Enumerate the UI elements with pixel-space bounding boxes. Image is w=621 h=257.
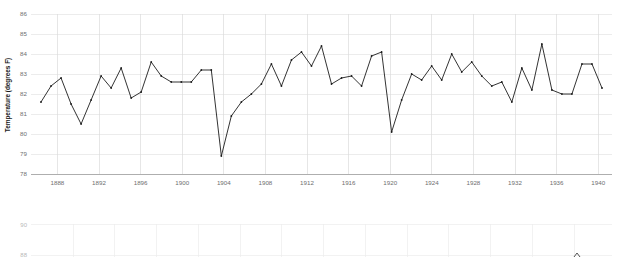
data-point (321, 45, 323, 47)
chart2-y-tick-labels: 90 88 (20, 222, 27, 257)
data-point (40, 101, 42, 103)
data-point (601, 87, 603, 89)
data-point (521, 67, 523, 69)
svg-text:1900: 1900 (175, 179, 189, 186)
data-point (401, 99, 403, 101)
svg-text:83: 83 (20, 70, 27, 77)
data-point (411, 73, 413, 75)
data-point (511, 101, 513, 103)
data-point (591, 63, 593, 65)
svg-text:1904: 1904 (217, 179, 231, 186)
data-point (531, 89, 533, 91)
data-point (451, 53, 453, 55)
chart2-gridlines (31, 224, 612, 257)
data-point (341, 77, 343, 79)
data-point (250, 93, 252, 95)
svg-text:79: 79 (20, 150, 27, 157)
svg-text:80: 80 (20, 130, 27, 137)
data-point (150, 61, 152, 63)
secondary-chart-cropped: 90 88 (0, 214, 621, 257)
data-point (371, 55, 373, 57)
data-point (471, 61, 473, 63)
data-point (210, 69, 212, 71)
data-point (240, 101, 242, 103)
data-point (110, 87, 112, 89)
svg-text:1940: 1940 (591, 179, 605, 186)
svg-text:1916: 1916 (342, 179, 356, 186)
svg-text:1924: 1924 (425, 179, 439, 186)
page-root: Temperature (degrees F) (0, 0, 621, 257)
chart2-svg: 90 88 (0, 214, 621, 257)
svg-text:1928: 1928 (467, 179, 481, 186)
data-point (160, 75, 162, 77)
data-point (261, 83, 263, 85)
svg-text:86: 86 (20, 10, 27, 17)
svg-text:1896: 1896 (134, 179, 148, 186)
svg-text:88: 88 (20, 252, 27, 257)
data-point (361, 85, 363, 87)
svg-text:85: 85 (20, 30, 27, 37)
chart1-svg: Temperature (degrees F) (0, 0, 621, 196)
data-point (100, 75, 102, 77)
data-point (281, 85, 283, 87)
data-point (501, 81, 503, 83)
data-point (271, 63, 273, 65)
data-point (491, 85, 493, 87)
data-point (311, 65, 313, 67)
data-point (331, 83, 333, 85)
svg-text:1920: 1920 (383, 179, 397, 186)
svg-text:1912: 1912 (300, 179, 314, 186)
data-point (190, 81, 192, 83)
data-point (50, 85, 52, 87)
data-point (170, 81, 172, 83)
data-point (551, 89, 553, 91)
data-point (561, 93, 563, 95)
data-point (481, 75, 483, 77)
svg-text:1932: 1932 (508, 179, 522, 186)
x-tick-labels: 1888 1892 1896 1900 1904 1908 1912 1916 … (51, 179, 606, 186)
data-point (351, 75, 353, 77)
y-tick-labels: 86 85 84 83 82 81 80 79 78 (20, 10, 27, 177)
svg-text:78: 78 (20, 170, 27, 177)
data-point (391, 131, 393, 133)
svg-text:1936: 1936 (550, 179, 564, 186)
data-point (461, 71, 463, 73)
data-point (70, 103, 72, 105)
data-point (581, 63, 583, 65)
data-point (381, 51, 383, 53)
data-point (200, 69, 202, 71)
y-gridlines (31, 14, 612, 174)
svg-text:82: 82 (20, 90, 27, 97)
svg-text:90: 90 (20, 222, 27, 228)
svg-text:1892: 1892 (92, 179, 106, 186)
data-point (441, 79, 443, 81)
data-point (431, 65, 433, 67)
data-point (120, 67, 122, 69)
svg-text:84: 84 (20, 50, 27, 57)
data-point (291, 59, 293, 61)
temperature-series-points (40, 43, 603, 157)
temperature-series-line (41, 44, 602, 156)
data-point (130, 97, 132, 99)
svg-text:1888: 1888 (51, 179, 65, 186)
data-point (230, 115, 232, 117)
y-axis-title: Temperature (degrees F) (4, 58, 12, 132)
data-point (60, 77, 62, 79)
temperature-line-chart: Temperature (degrees F) (0, 0, 621, 196)
data-point (541, 43, 543, 45)
data-point (301, 51, 303, 53)
data-point (421, 79, 423, 81)
data-point (90, 99, 92, 101)
data-point (220, 155, 222, 157)
data-point (571, 93, 573, 95)
data-point (80, 123, 82, 125)
data-point (140, 91, 142, 93)
svg-text:81: 81 (20, 110, 27, 117)
data-point (180, 81, 182, 83)
svg-text:1908: 1908 (259, 179, 273, 186)
